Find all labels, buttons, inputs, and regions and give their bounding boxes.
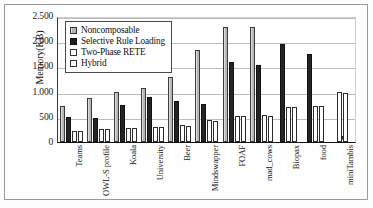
bar: [307, 54, 312, 142]
y-tick-label: 2.000: [33, 37, 53, 47]
x-tick-label: Teams: [74, 145, 84, 167]
legend-item: Noncomposable: [70, 25, 165, 36]
bar: [213, 121, 218, 142]
bar: [93, 118, 98, 142]
bar: [114, 92, 119, 142]
x-axis-labels: TeamsOWL-S profileKoalaUniversityBeerMin…: [57, 145, 356, 205]
y-tick-label: 0: [48, 138, 53, 148]
x-tick-label: food: [318, 145, 328, 160]
bar-group: [194, 18, 221, 142]
x-tick-label: miniTambis: [345, 145, 355, 185]
bar: [78, 131, 83, 142]
bar: [147, 97, 152, 142]
bar: [262, 115, 267, 142]
legend-item: Two-Phase RETE: [70, 47, 165, 58]
bar: [180, 125, 185, 142]
bar: [99, 129, 104, 142]
legend-swatch-icon: [70, 38, 77, 45]
bar: [87, 98, 92, 142]
bar: [66, 117, 71, 142]
legend-item: Selective Rule Loading: [70, 36, 165, 47]
legend-label: Noncomposable: [81, 25, 139, 36]
bar-group: [221, 18, 248, 142]
legend-label: Hybrid: [81, 58, 106, 69]
bar: [256, 65, 261, 142]
chart-figure: Memory(KB) 05001.0001.5002.0002.500 xxxx…: [0, 0, 373, 208]
bar: [126, 128, 131, 142]
bar: [168, 77, 173, 142]
y-axis: Memory(KB) 05001.0001.5002.0002.500: [8, 0, 53, 208]
legend-label: Selective Rule Loading: [81, 36, 165, 47]
bar: [153, 127, 158, 142]
bar-group: xx: [330, 18, 357, 142]
x-tick-label: Mindswapper: [210, 145, 220, 191]
bar: [60, 106, 65, 142]
bar: [268, 116, 273, 142]
bar: [241, 116, 246, 142]
bar-group: x: [303, 18, 330, 142]
x-tick-label: University: [155, 145, 165, 180]
bar: [186, 126, 191, 142]
bar: [313, 106, 318, 142]
bar: [195, 50, 200, 142]
x-tick-label: mad_cows: [264, 145, 274, 181]
chart-legend: NoncomposableSelective Rule LoadingTwo-P…: [65, 21, 172, 73]
bar: [120, 105, 125, 142]
bar: [201, 104, 206, 142]
legend-swatch-icon: [70, 27, 77, 34]
y-tick-label: 500: [39, 113, 53, 123]
bar-group: [248, 18, 275, 142]
bar: [250, 27, 255, 142]
x-tick-label: Biopax: [291, 145, 301, 169]
bar: [280, 44, 285, 142]
y-tick-label: 1.000: [33, 88, 53, 98]
bar: [174, 101, 179, 142]
legend-swatch-icon: [70, 49, 77, 56]
bar: [235, 116, 240, 142]
bar: [207, 120, 212, 142]
bar: [292, 107, 297, 142]
bar-group: x: [275, 18, 302, 142]
x-tick-label: Beer: [182, 145, 192, 161]
legend-label: Two-Phase RETE: [81, 47, 146, 58]
legend-swatch-icon: [70, 60, 77, 67]
x-tick-label: Koala: [128, 145, 138, 165]
bar: [105, 129, 110, 142]
bar: [343, 93, 348, 142]
bar: [132, 128, 137, 142]
bar: [319, 106, 324, 142]
bar: [337, 92, 342, 142]
y-tick-label: 2.500: [33, 12, 53, 22]
bar: [223, 27, 228, 142]
bar: [286, 107, 291, 142]
bar: [159, 127, 164, 142]
bar: [229, 62, 234, 142]
bar: [72, 131, 77, 142]
legend-item: Hybrid: [70, 58, 165, 69]
x-tick-label: OWL-S profile: [101, 145, 111, 196]
bar: [141, 88, 146, 142]
y-tick-label: 1.500: [33, 62, 53, 72]
x-tick-label: FOAF: [237, 145, 247, 167]
